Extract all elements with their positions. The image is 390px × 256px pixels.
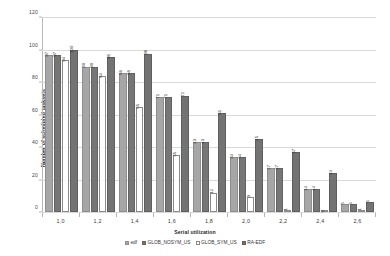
bar-value-label: 27 (275, 165, 279, 170)
x-tick-label: 1,6 (153, 218, 190, 224)
bar[interactable] (144, 54, 152, 212)
bar[interactable] (128, 73, 136, 212)
bar-value-label: 24 (328, 170, 332, 175)
bar-value-label: 1 (283, 208, 287, 211)
x-axis-title: Serial utilization (0, 229, 390, 235)
bar-group: 1414024 (302, 18, 339, 212)
bar-value-label: 100 (69, 46, 73, 53)
legend-swatch-icon (196, 241, 200, 245)
bar-value-label: 5 (349, 202, 353, 205)
bar-slot: 71 (165, 18, 173, 212)
x-axis-tick-marks (42, 213, 376, 217)
bar[interactable] (267, 168, 275, 212)
bar-value-label: 86 (127, 69, 131, 74)
y-tick-label: 120 (29, 9, 42, 15)
bar[interactable] (54, 55, 62, 212)
bar[interactable] (99, 76, 107, 212)
bar-slot: 14 (304, 18, 312, 212)
y-tick-mark (39, 179, 42, 180)
bar[interactable] (119, 73, 127, 212)
bar[interactable] (62, 60, 70, 212)
bar-value-label: 45 (254, 136, 258, 141)
bar-value-label: 43 (201, 139, 205, 144)
bar-value-label: 34 (230, 154, 234, 159)
bar[interactable] (292, 152, 300, 212)
legend-swatch-icon (142, 241, 146, 245)
x-tick-label: 2,4 (302, 218, 339, 224)
chart-legend: edfGLOB_NOSYM_USGLOB_SYM_USRA-EDF (0, 240, 390, 245)
bar-value-label: 1 (357, 208, 361, 211)
bar-value-label: 97 (53, 52, 57, 57)
bar-slot: 90 (82, 18, 90, 212)
bar[interactable] (202, 142, 210, 212)
bar-slot: 27 (276, 18, 284, 212)
legend-item[interactable]: RA-EDF (242, 240, 265, 245)
bar-slot: 96 (107, 18, 115, 212)
bar[interactable] (230, 157, 238, 212)
bar-groups: 9797941009090849686866598717135724343126… (43, 18, 376, 212)
bar-slot: 45 (255, 18, 263, 212)
bar[interactable] (91, 67, 99, 213)
bar[interactable] (136, 107, 144, 212)
bar-group: 979794100 (43, 18, 80, 212)
bar-slot: 84 (99, 18, 107, 212)
x-tick-mark (116, 213, 153, 217)
bar[interactable] (304, 189, 312, 212)
bar-value-label: 65 (135, 103, 139, 108)
bar-slot: 35 (173, 18, 181, 212)
bar-value-label: 12 (209, 189, 213, 194)
bar[interactable] (181, 96, 189, 212)
bar-value-label: 90 (82, 63, 86, 68)
bar-value-label: 37 (291, 149, 295, 154)
bar-value-label: 27 (267, 165, 271, 170)
legend-item[interactable]: edf (125, 240, 137, 245)
bar-slot: 86 (119, 18, 127, 212)
x-tick-label: 1,0 (42, 218, 79, 224)
bar[interactable] (210, 193, 218, 212)
bar[interactable] (82, 67, 90, 213)
bar[interactable] (255, 139, 263, 212)
bar-group: 43431261 (191, 18, 228, 212)
bar[interactable] (366, 202, 374, 212)
bar-value-label: 5 (341, 202, 345, 205)
plot-area: 020406080100120 979794100909084968686659… (42, 18, 376, 213)
legend-item[interactable]: GLOB_NOSYM_US (142, 240, 190, 245)
bar[interactable] (218, 113, 226, 212)
bar-value-label: 90 (90, 63, 94, 68)
y-tick-mark (39, 82, 42, 83)
bar-slot: 71 (156, 18, 164, 212)
bar[interactable] (247, 197, 255, 212)
bar-slot: 9 (247, 18, 255, 212)
bar[interactable] (276, 168, 284, 212)
bar-slot: 97 (45, 18, 53, 212)
bar-group: 2727137 (265, 18, 302, 212)
bar-slot: 37 (292, 18, 300, 212)
x-tick-mark (264, 213, 301, 217)
bar[interactable] (45, 55, 53, 212)
bar[interactable] (193, 142, 201, 212)
bar-slot: 6 (366, 18, 374, 212)
x-tick-mark (190, 213, 227, 217)
bar[interactable] (107, 57, 115, 212)
legend-item[interactable]: GLOB_SYM_US (196, 240, 237, 245)
bar[interactable] (239, 157, 247, 212)
bar[interactable] (173, 155, 181, 212)
bar-group: 71713572 (154, 18, 191, 212)
bar-slot: 86 (128, 18, 136, 212)
x-tick-mark (338, 213, 376, 217)
bar[interactable] (341, 204, 349, 212)
bar-value-label: 71 (156, 94, 160, 99)
x-axis-ticks: 1,01,21,41,61,82,02,22,42,6 (42, 218, 376, 224)
bar-value-label: 61 (217, 110, 221, 115)
bar-slot: 100 (70, 18, 78, 212)
bar-slot: 90 (91, 18, 99, 212)
bar-value-label: 0 (320, 210, 324, 213)
bar[interactable] (329, 173, 337, 212)
y-tick-label: 40 (32, 139, 42, 145)
bar[interactable] (156, 97, 164, 212)
bar-value-label: 72 (180, 92, 184, 97)
bar-slot: 14 (313, 18, 321, 212)
bar-value-label: 84 (98, 73, 102, 78)
bar[interactable] (70, 50, 78, 212)
x-tick-mark (42, 213, 79, 217)
